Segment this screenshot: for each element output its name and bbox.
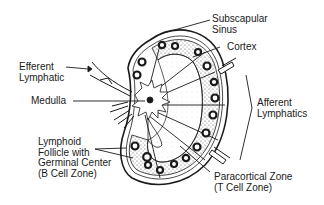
label-afferent-lymphatics: Afferent Lymphatics [257,98,307,119]
label-subscapular-sinus: Subscapular Sinus [212,14,268,35]
label-paracortical-zone: Paracortical Zone (T Cell Zone) [214,172,292,193]
label-lymphoid-follicle: Lymphoid Follicle with Germinal Center (… [38,137,111,179]
label-medulla: Medulla [31,96,66,107]
label-efferent-lymphatic: Efferent Lymphatic [19,62,64,83]
label-cortex: Cortex [227,42,256,53]
